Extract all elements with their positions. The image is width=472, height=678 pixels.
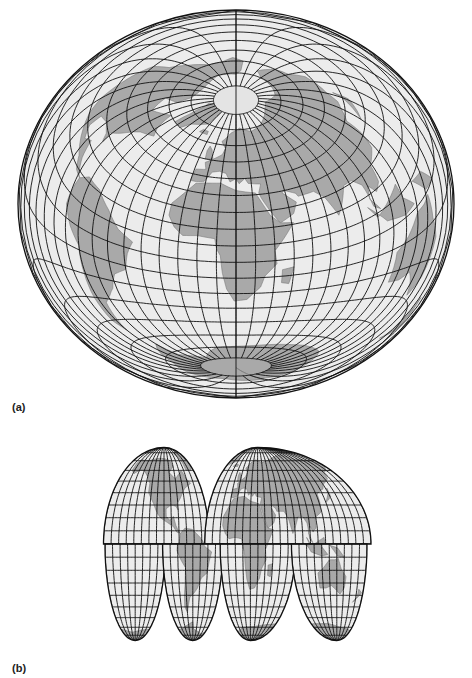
land-greenland: [191, 451, 207, 471]
globe-projection-a: [0, 0, 472, 400]
land-uk: [205, 472, 210, 481]
land-iceland: [209, 464, 214, 466]
interrupted-projection-b: [0, 440, 472, 660]
panel-label-b: (b): [12, 662, 26, 674]
panel-label-a: (a): [12, 401, 25, 413]
land-iceland: [197, 464, 200, 466]
